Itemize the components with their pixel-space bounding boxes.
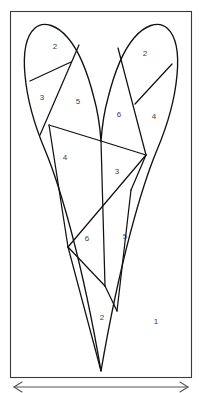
piece-label-2-bottom: 2 xyxy=(100,313,105,322)
piece-label-2-left: 2 xyxy=(53,42,58,51)
piece-label-4-lower: 4 xyxy=(63,153,68,162)
scale-bar xyxy=(14,382,188,392)
figure-canvas: 1 2 3 5 2 6 4 4 3 6 5 2 xyxy=(0,0,202,393)
piece-label-5-lower: 5 xyxy=(123,232,128,241)
piece-label-3-lower: 3 xyxy=(115,167,120,176)
piece-label-4-right: 4 xyxy=(152,112,157,121)
heart-dissection-figure: 1 2 3 5 2 6 4 4 3 6 5 2 xyxy=(0,0,202,393)
piece-label-5-left: 5 xyxy=(76,97,81,106)
piece-label-6-upper: 6 xyxy=(117,110,122,119)
piece-label-2-right: 2 xyxy=(143,49,148,58)
piece-label-6-lower: 6 xyxy=(85,234,90,243)
piece-label-3-left: 3 xyxy=(40,93,45,102)
piece-label-1: 1 xyxy=(154,317,159,326)
